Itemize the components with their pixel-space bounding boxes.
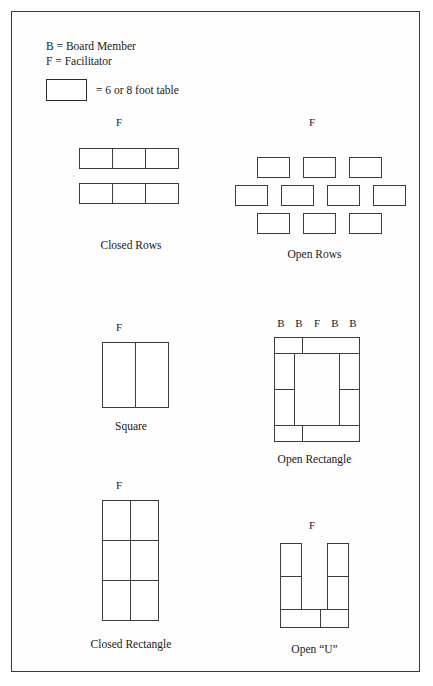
table bbox=[130, 580, 159, 621]
arrangement-square: F Square bbox=[56, 312, 206, 442]
caption-closed-rectangle: Closed Rectangle bbox=[56, 638, 206, 650]
scan-artifact-text bbox=[0, 0, 433, 9]
marker-board-member: B bbox=[347, 318, 359, 329]
legend-swatch-label: = 6 or 8 foot table bbox=[96, 84, 179, 96]
caption-open-rows: Open Rows bbox=[217, 248, 412, 260]
table bbox=[135, 342, 169, 408]
table bbox=[274, 389, 295, 426]
table bbox=[302, 425, 360, 442]
table bbox=[145, 148, 179, 169]
marker-board-member: B bbox=[329, 318, 341, 329]
table bbox=[303, 157, 336, 178]
arrangement-closed-rectangle: F Closed Rectangle bbox=[56, 472, 206, 647]
table bbox=[102, 580, 131, 621]
marker-facilitator: F bbox=[305, 520, 319, 531]
marker-facilitator: F bbox=[112, 322, 126, 333]
table bbox=[303, 213, 336, 234]
figure-frame: B = Board Member F = Facilitator = 6 or … bbox=[11, 11, 420, 672]
legend-swatch-row: = 6 or 8 foot table bbox=[46, 79, 306, 101]
table bbox=[257, 157, 290, 178]
caption-open-u: Open “U” bbox=[217, 643, 412, 655]
arrangement-open-rectangle: B B F B B Open Rectangle bbox=[217, 307, 412, 462]
table bbox=[281, 185, 314, 206]
table bbox=[274, 337, 303, 354]
caption-square: Square bbox=[56, 420, 206, 432]
marker-board-member: B bbox=[293, 318, 305, 329]
table bbox=[79, 183, 113, 204]
legend-board-member: B = Board Member bbox=[46, 39, 306, 54]
table bbox=[349, 213, 382, 234]
arrangement-open-rows: F Open Rows bbox=[217, 112, 412, 262]
table bbox=[112, 183, 146, 204]
table bbox=[302, 337, 360, 354]
table bbox=[130, 540, 159, 581]
table bbox=[327, 543, 349, 577]
table bbox=[102, 540, 131, 581]
marker-facilitator: F bbox=[305, 117, 319, 128]
marker-facilitator: F bbox=[112, 117, 126, 128]
table bbox=[130, 500, 159, 541]
caption-closed-rows: Closed Rows bbox=[56, 239, 206, 251]
table bbox=[102, 342, 136, 408]
table-swatch-icon bbox=[46, 79, 87, 101]
marker-facilitator: F bbox=[112, 480, 126, 491]
arrangement-open-u: F Open “U” bbox=[217, 512, 412, 647]
table bbox=[339, 389, 360, 426]
table bbox=[280, 576, 302, 610]
table bbox=[327, 185, 360, 206]
table bbox=[145, 183, 179, 204]
table bbox=[274, 425, 303, 442]
table bbox=[79, 148, 113, 169]
table bbox=[280, 543, 302, 577]
table bbox=[274, 353, 295, 390]
legend-facilitator: F = Facilitator bbox=[46, 54, 306, 69]
table bbox=[320, 609, 349, 628]
arrangement-closed-rows: F Closed Rows bbox=[56, 112, 206, 262]
marker-facilitator: F bbox=[311, 318, 323, 329]
caption-open-rectangle: Open Rectangle bbox=[217, 453, 412, 465]
table bbox=[112, 148, 146, 169]
legend: B = Board Member F = Facilitator = 6 or … bbox=[46, 39, 306, 101]
marker-board-member: B bbox=[275, 318, 287, 329]
table bbox=[373, 185, 406, 206]
table bbox=[257, 213, 290, 234]
table bbox=[235, 185, 268, 206]
table bbox=[327, 576, 349, 610]
table bbox=[339, 353, 360, 390]
table bbox=[280, 609, 321, 628]
table bbox=[349, 157, 382, 178]
table bbox=[102, 500, 131, 541]
